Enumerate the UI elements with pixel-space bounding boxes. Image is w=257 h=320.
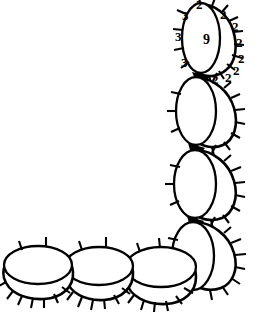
right-tick-label-2: 2 [220, 8, 227, 21]
right-tick-label-1: 2 [196, 0, 203, 11]
right-tick-label-4: 2 [236, 36, 243, 49]
segment-h3-face [126, 247, 196, 287]
segment-label-9: 9 [203, 33, 210, 47]
segment-v2-face [176, 77, 216, 145]
right-tick-label-6: 2 [233, 64, 240, 77]
segment-h2-face [65, 247, 133, 285]
segment-h1 [0, 237, 73, 308]
left-tick-label-3: 3 [181, 56, 188, 69]
right-tick-label-8: 2 [212, 73, 219, 86]
right-tick-label-3: 2 [232, 20, 239, 33]
segment-h1-face [4, 246, 72, 284]
left-tick-label-1: 3 [182, 9, 189, 22]
segment-v3-face [174, 150, 216, 218]
right-tick-label-7: 2 [225, 71, 232, 84]
organism-drawing [0, 0, 257, 320]
left-tick-label-2: 3 [175, 30, 182, 43]
segment-v2 [167, 73, 245, 156]
figure-root: 9 3 3 3 2 2 2 2 2 2 2 2 [0, 0, 257, 320]
segment-v3 [165, 145, 245, 229]
